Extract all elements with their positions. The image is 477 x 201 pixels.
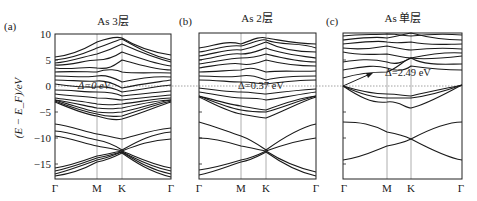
- panel-c-tag: (c): [326, 15, 339, 28]
- panel-b-frame: [199, 33, 316, 179]
- panel-c-xticks: Γ M K Γ: [341, 182, 464, 194]
- svg-text:M: M: [382, 182, 392, 194]
- ytick-10: 10: [40, 28, 52, 40]
- ytick-0: 0: [46, 80, 52, 92]
- svg-text:Γ: Γ: [458, 182, 464, 194]
- bands-c: [343, 33, 462, 160]
- panel-b-title: As 2层: [241, 12, 272, 24]
- svg-text:Γ: Γ: [168, 182, 174, 194]
- panel-c-frame: [343, 33, 462, 179]
- panel-a-xticks: Γ M K Γ: [52, 182, 174, 194]
- gap-arrow: [343, 74, 370, 86]
- svg-text:Γ: Γ: [313, 182, 319, 194]
- panel-c-gap-label: Δ=2.49 eV: [385, 67, 431, 78]
- svg-text:Γ: Γ: [52, 182, 58, 194]
- panel-a-tag: (a): [4, 20, 17, 33]
- svg-text:M: M: [236, 182, 246, 194]
- panel-b-xticks: Γ M K Γ: [196, 182, 319, 194]
- svg-text:K: K: [262, 182, 270, 194]
- y-tick-labels: 10 5 0 −5 −10 −15: [34, 28, 52, 170]
- arrow-head-icon: [366, 73, 373, 78]
- panel-b-gap-label: Δ=0.37 eV: [238, 80, 284, 91]
- svg-text:K: K: [118, 182, 126, 194]
- svg-text:K: K: [407, 182, 415, 194]
- ytick-m5: −5: [39, 106, 51, 118]
- panel-c-title: As 单层: [385, 12, 422, 24]
- panel-a-title: As 3层: [97, 15, 128, 27]
- bands-a: [55, 37, 171, 177]
- panel-c: (c) As 单层 Δ=2.49 eV Γ: [326, 12, 464, 194]
- band-structure-figure: (E − E_F)/eV 10 5 0 −5 −10 −15 (a) As 3层: [0, 0, 477, 201]
- svg-text:Γ: Γ: [196, 182, 202, 194]
- ytick-m10: −10: [34, 132, 52, 144]
- bands-b: [199, 37, 316, 176]
- panel-a: (a) As 3层: [4, 15, 174, 194]
- ytick-5: 5: [46, 54, 52, 66]
- y-axis-label: (E − E_F)/eV: [12, 76, 25, 138]
- svg-text:Γ: Γ: [341, 182, 347, 194]
- panel-b: (b) As 2层 Δ=0.37 eV: [179, 12, 319, 194]
- panel-a-gap-label: Δ=0 eV: [77, 80, 112, 91]
- panel-b-tag: (b): [179, 15, 192, 28]
- svg-text:M: M: [92, 182, 102, 194]
- ytick-m15: −15: [34, 158, 52, 170]
